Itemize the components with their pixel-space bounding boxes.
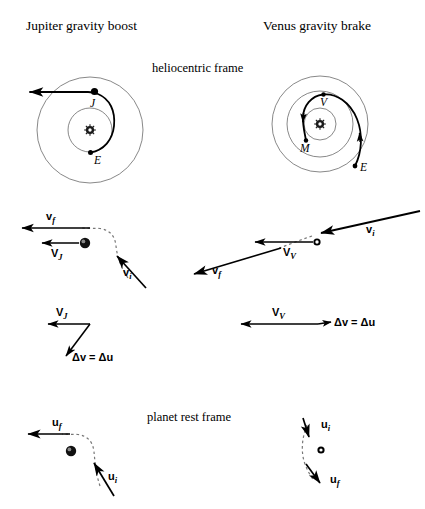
planet-velocity-label: VV: [283, 247, 296, 261]
right-delta-v-panel: [241, 322, 331, 324]
earth-orbit-label: E: [360, 162, 367, 174]
jupiter-marker: [91, 88, 98, 95]
v-final-label: vf: [46, 211, 55, 225]
u-initial-symbol: u: [108, 470, 115, 482]
u-final-label: uf: [52, 417, 62, 431]
right-heliocentric-orbit-panel: [272, 76, 368, 172]
sun-icon: [84, 124, 96, 136]
u-initial-label: ui: [108, 471, 117, 485]
planet-body-icon: [66, 446, 76, 456]
left-rest-frame-panel: [28, 434, 114, 496]
dashed-trajectory: [62, 434, 100, 486]
jupiter-body-icon: [80, 238, 90, 248]
dashed-trajectory: [82, 228, 128, 278]
sun-icon: [314, 118, 326, 130]
jupiter-orbit-label: J: [90, 98, 95, 110]
venus-body-icon: [313, 238, 320, 245]
earth-orbit-label: E: [94, 155, 101, 167]
v-initial-subscript: i: [129, 271, 131, 281]
v-initial-label: vi: [366, 224, 375, 238]
left-heliocentric-orbit-panel: [30, 77, 143, 183]
planet-body-icon: [317, 446, 324, 453]
u-final-symbol: u: [330, 473, 337, 485]
earth-marker: [353, 164, 358, 169]
v-initial-subscript: i: [372, 228, 374, 238]
trajectory-arrow-outer: [360, 133, 361, 142]
spacecraft-trajectory-left: [30, 92, 114, 153]
v-final-arrow: [194, 248, 281, 274]
u-final-subscript: f: [59, 421, 62, 431]
u-initial-subscript: i: [115, 475, 117, 485]
earth-marker: [88, 150, 93, 155]
planet-velocity-label: VJ: [51, 248, 63, 262]
planet-velocity-label: VV: [272, 307, 285, 321]
heliocentric-frame-label: heliocentric frame: [152, 62, 243, 75]
right-panel-title: Venus gravity brake: [263, 19, 371, 33]
u-final-symbol: u: [52, 416, 59, 428]
delta-v-arrow: [318, 322, 331, 324]
u-initial-label: ui: [321, 419, 330, 433]
v-initial-label: vi: [123, 267, 132, 281]
planet-velocity-label: VJ: [56, 307, 68, 321]
planet-rest-frame-label: planet rest frame: [147, 411, 231, 424]
right-velocity-vector-panel: [194, 211, 420, 274]
u-initial-subscript: i: [328, 423, 330, 433]
v-final-subscript: f: [52, 215, 55, 225]
planet-velocity-subscript: J: [58, 252, 62, 262]
u-initial-symbol: u: [321, 418, 328, 430]
planet-velocity-subscript: V: [279, 311, 285, 321]
mercury-orbit-label: M: [300, 143, 310, 155]
v-final-label: vf: [212, 265, 221, 279]
gravity-assist-figure: Jupiter gravity boost Venus gravity brak…: [0, 0, 425, 509]
u-final-label: uf: [330, 474, 340, 488]
left-panel-title: Jupiter gravity boost: [26, 19, 137, 33]
trajectory-arrow-inner: [303, 113, 304, 122]
planet-velocity-subscript: J: [63, 311, 67, 321]
u-final-subscript: f: [337, 478, 340, 488]
venus-orbit-label: V: [320, 97, 327, 109]
v-final-subscript: f: [218, 269, 221, 279]
delta-v-equation: Δv = Δu: [334, 317, 375, 328]
figure-canvas: [0, 0, 425, 509]
u-initial-arrow: [303, 418, 309, 437]
delta-v-equation: Δv = Δu: [72, 352, 113, 363]
planet-velocity-subscript: V: [290, 251, 296, 261]
u-final-arrow: [306, 464, 320, 483]
